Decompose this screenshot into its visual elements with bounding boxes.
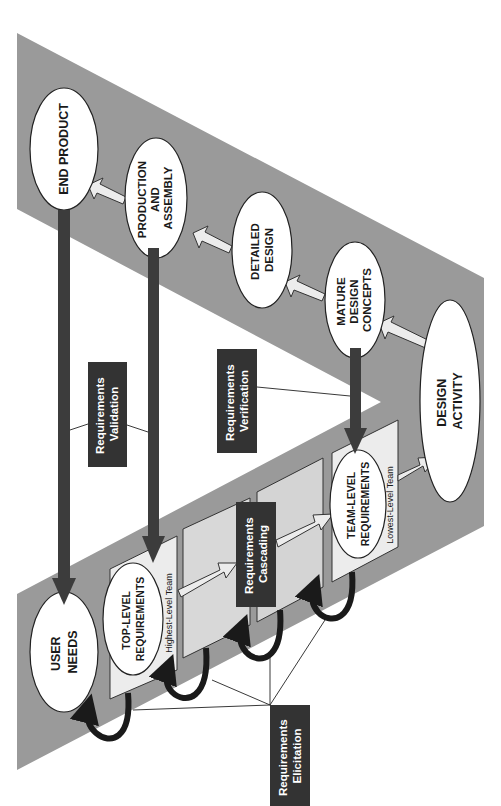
validation-leader-right xyxy=(127,425,148,432)
elicitation-leader-2 xyxy=(212,680,270,705)
verification-leader xyxy=(257,387,350,396)
node-team-level xyxy=(330,450,386,558)
node-detailed-design xyxy=(232,192,292,308)
node-design-activity xyxy=(420,300,480,502)
callout-verification-box xyxy=(217,349,257,453)
node-top-level xyxy=(103,563,163,675)
label-mature-design: MATURE DESIGN CONCEPTS xyxy=(335,268,373,332)
label-lowest-level-team: Lowest-Level Team xyxy=(385,466,395,543)
arrow-mature-to-team-shaft xyxy=(350,348,361,430)
v-model-diagram: END PRODUCT PRODUCTION AND ASSEMBLY DETA… xyxy=(0,0,501,806)
arrow-production-to-top-shaft xyxy=(148,248,159,538)
callout-cascading-box xyxy=(236,502,276,607)
callout-elicitation-box xyxy=(270,705,310,806)
elicitation-leader-1 xyxy=(133,705,270,710)
node-user-needs xyxy=(30,592,98,712)
label-end-product: END PRODUCT xyxy=(57,103,71,195)
validation-leader-left xyxy=(70,424,88,430)
arrow-end-to-user-shaft xyxy=(58,210,70,580)
label-highest-level-team: Highest-Level Team xyxy=(164,573,174,652)
